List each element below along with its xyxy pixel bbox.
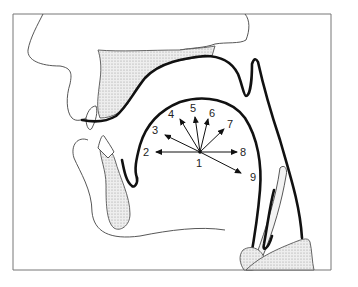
head-outline	[180, 14, 249, 50]
label-6: 6	[209, 107, 215, 119]
label-3: 3	[152, 124, 158, 136]
label-9: 9	[250, 171, 256, 183]
arrow-7	[200, 129, 224, 152]
vocal-tract-diagram: 1 2 3 4 5 6 7 8 9	[0, 0, 358, 287]
upper-incisor	[86, 106, 97, 130]
face-profile	[28, 14, 86, 120]
label-7: 7	[227, 118, 233, 130]
arrow-6	[200, 119, 208, 152]
arrow-9	[200, 152, 241, 173]
arrow-5	[195, 117, 200, 152]
center-point	[198, 150, 202, 154]
label-8: 8	[240, 146, 246, 158]
label-1: 1	[196, 157, 202, 169]
label-4: 4	[168, 108, 174, 120]
label-2: 2	[143, 146, 149, 158]
lower-jaw	[100, 148, 130, 230]
label-5: 5	[190, 102, 196, 114]
